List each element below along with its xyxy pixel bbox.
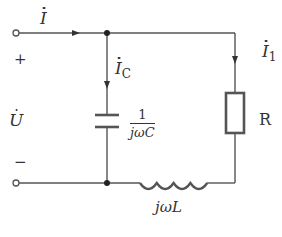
label-inductor-impedance: jωL xyxy=(155,200,182,215)
inductor-symbol xyxy=(140,183,207,189)
current-arrow-ic xyxy=(104,81,110,89)
label-resistor: R xyxy=(259,112,271,128)
capacitor-impedance-denominator: jωC xyxy=(130,124,155,140)
junction-top xyxy=(104,30,110,36)
label-voltage: U xyxy=(9,112,23,129)
label-capacitor-impedance: 1 jωC xyxy=(130,107,155,140)
capacitor-impedance-numerator: 1 xyxy=(130,107,155,124)
resistor-symbol xyxy=(226,93,244,133)
label-ic-base: I xyxy=(115,60,122,77)
label-i1-sub: 1 xyxy=(269,50,277,64)
label-source-current-text: I xyxy=(40,10,47,27)
terminal-top xyxy=(13,30,19,36)
label-ic-sub: C xyxy=(122,67,131,81)
circuit-diagram: I IC I1 + U − R 1 jωC jωL xyxy=(0,0,282,237)
label-minus: − xyxy=(14,155,27,170)
label-source-current: I xyxy=(40,10,47,27)
label-i1-base: I xyxy=(262,43,269,60)
terminal-bottom xyxy=(13,180,19,186)
junction-bottom xyxy=(104,180,110,186)
label-plus: + xyxy=(14,52,27,67)
current-arrow-i xyxy=(72,30,80,36)
label-voltage-text: U xyxy=(9,112,23,129)
label-capacitor-current: IC xyxy=(115,60,131,77)
label-resistor-current: I1 xyxy=(262,43,276,60)
current-arrow-i1 xyxy=(232,56,238,64)
